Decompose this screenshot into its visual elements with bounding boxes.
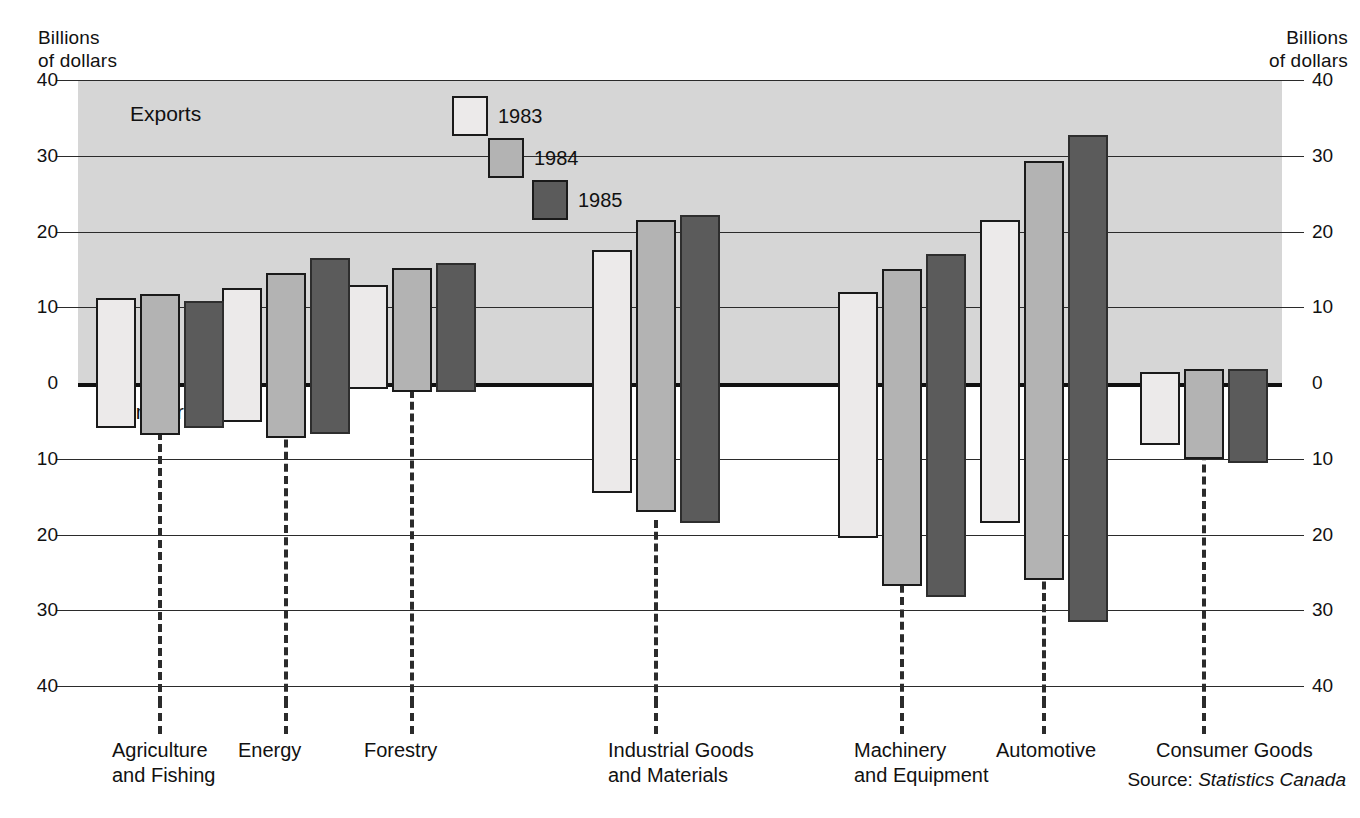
tick-stub [1282, 156, 1304, 157]
exports-region-label: Exports [130, 102, 201, 126]
legend-item-1983: 1983 [452, 96, 543, 136]
y-tick-label-l-30: 30 [20, 146, 58, 165]
y-tick-label-r-10-neg: 10 [1312, 449, 1360, 468]
bar-1984[interactable] [1024, 161, 1064, 580]
category-label: Industrial Goods and Materials [608, 738, 754, 788]
tick-stub [56, 535, 78, 536]
bar-1983[interactable] [980, 220, 1020, 523]
category-label: Automotive [996, 738, 1096, 763]
tick-stub [56, 80, 78, 81]
legend: 1983 1984 1985 [452, 96, 672, 226]
tick-stub [1282, 459, 1304, 460]
bar-1984[interactable] [140, 294, 180, 435]
category-leader-line [410, 390, 414, 704]
y-tick-label-l-0: 0 [20, 373, 58, 392]
y-tick-label-r-0: 0 [1312, 373, 1360, 392]
category-tick [410, 700, 414, 734]
legend-label-1985: 1985 [578, 189, 623, 212]
tick-stub [1282, 610, 1304, 611]
bar-1985[interactable] [1228, 369, 1268, 464]
category-label: Machinery and Equipment [854, 738, 989, 788]
y-tick-label-l-20: 20 [20, 222, 58, 241]
source-prefix: Source: [1127, 769, 1192, 790]
y-tick-label-l-10: 10 [20, 297, 58, 316]
y-tick-label-l-40: 40 [20, 70, 58, 89]
legend-swatch-1985 [532, 180, 568, 220]
bar-1983[interactable] [592, 250, 632, 493]
y-tick-label-r-40-neg: 40 [1312, 676, 1360, 695]
category-label: Agriculture and Fishing [112, 738, 215, 788]
y-tick-label-r-20-neg: 20 [1312, 525, 1360, 544]
bar-1983[interactable] [838, 292, 878, 538]
category-leader-line [1042, 570, 1046, 704]
y-tick-label-r-40: 40 [1312, 70, 1360, 89]
category-tick [1042, 700, 1046, 734]
legend-swatch-1984 [488, 138, 524, 178]
bar-1985[interactable] [680, 215, 720, 523]
y-tick-label-r-20: 20 [1312, 222, 1360, 241]
category-leader-line [1202, 440, 1206, 704]
bar-1983[interactable] [96, 298, 136, 428]
bar-1985[interactable] [184, 301, 224, 428]
tick-stub [56, 232, 78, 233]
category-tick [654, 700, 658, 734]
bar-1983[interactable] [348, 285, 388, 390]
category-label: Energy [238, 738, 301, 763]
category-label: Consumer Goods [1156, 738, 1313, 763]
source-note: Source: Statistics Canada [1127, 769, 1346, 791]
bar-1984[interactable] [1184, 369, 1224, 458]
tick-stub [56, 307, 78, 308]
y-tick-label-r-30: 30 [1312, 146, 1360, 165]
legend-label-1984: 1984 [534, 147, 579, 170]
trade-balance-chart: Billions of dollars Billions of dollars … [0, 0, 1360, 818]
category-tick [158, 700, 162, 734]
category-tick [900, 700, 904, 734]
left-axis-caption: Billions of dollars [38, 26, 117, 72]
tick-stub [1282, 307, 1304, 308]
tick-stub [56, 610, 78, 611]
bar-1985[interactable] [310, 258, 350, 434]
bar-1984[interactable] [392, 268, 432, 392]
plot-area [78, 80, 1282, 690]
bar-1985[interactable] [1068, 135, 1108, 622]
legend-item-1984: 1984 [488, 138, 579, 178]
tick-stub [1282, 535, 1304, 536]
bar-1985[interactable] [436, 263, 476, 392]
right-axis-caption: Billions of dollars [1269, 26, 1348, 72]
bar-1983[interactable] [1140, 372, 1180, 445]
y-tick-label-r-30-neg: 30 [1312, 600, 1360, 619]
y-tick-label-l-40-neg: 40 [20, 676, 58, 695]
category-leader-line [654, 520, 658, 704]
source-name: Statistics Canada [1198, 769, 1346, 790]
category-label: Forestry [364, 738, 437, 763]
bar-1984[interactable] [266, 273, 306, 438]
y-tick-label-l-30-neg: 30 [20, 600, 58, 619]
top-white-strip [0, 0, 1360, 10]
category-leader-line [284, 415, 288, 704]
tick-stub [1282, 686, 1304, 687]
legend-item-1985: 1985 [532, 180, 623, 220]
legend-label-1983: 1983 [498, 105, 543, 128]
bar-1983[interactable] [222, 288, 262, 422]
tick-stub [1282, 80, 1304, 81]
bar-1985[interactable] [926, 254, 966, 596]
y-tick-label-l-20-neg: 20 [20, 525, 58, 544]
category-leader-line [158, 420, 162, 704]
bar-1984[interactable] [636, 220, 676, 512]
category-tick [284, 700, 288, 734]
tick-stub [56, 686, 78, 687]
legend-swatch-1983 [452, 96, 488, 136]
y-tick-label-r-10: 10 [1312, 297, 1360, 316]
bar-1984[interactable] [882, 269, 922, 586]
tick-stub [56, 459, 78, 460]
y-tick-label-l-10-neg: 10 [20, 449, 58, 468]
tick-stub [1282, 232, 1304, 233]
tick-stub [56, 156, 78, 157]
category-tick [1202, 700, 1206, 734]
